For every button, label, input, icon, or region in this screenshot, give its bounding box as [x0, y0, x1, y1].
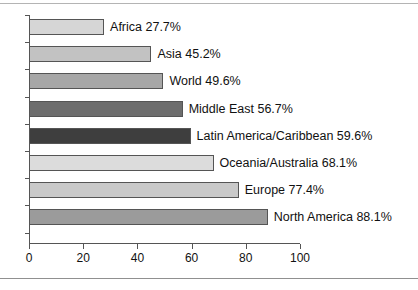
y-tick	[25, 15, 29, 16]
bar-label: Asia 45.2%	[157, 46, 220, 62]
y-tick	[25, 97, 29, 98]
y-tick	[25, 205, 29, 206]
y-tick	[25, 233, 29, 234]
bar-world	[29, 73, 163, 89]
plot-area: Africa 27.7%Asia 45.2%World 49.6%Middle …	[29, 15, 311, 243]
bar-label: Latin America/Caribbean 59.6%	[197, 128, 373, 144]
x-axis-line	[29, 243, 300, 244]
x-tick	[83, 244, 84, 249]
x-tick-label: 100	[280, 251, 320, 265]
x-tick-label: 20	[63, 251, 103, 265]
x-tick	[137, 244, 138, 249]
x-tick-label: 0	[9, 251, 49, 265]
bar-middle-east	[29, 101, 183, 117]
bar-label: World 49.6%	[169, 73, 240, 89]
bar-north-america	[29, 209, 268, 225]
bottom-divider-rule	[0, 278, 418, 279]
bar-asia	[29, 46, 151, 62]
x-tick-label: 40	[117, 251, 157, 265]
bar-label: Oceania/Australia 68.1%	[220, 155, 358, 171]
bar-label: Europe 77.4%	[245, 182, 324, 198]
x-tick-label: 60	[172, 251, 212, 265]
y-tick	[25, 178, 29, 179]
y-tick	[25, 151, 29, 152]
y-tick	[25, 69, 29, 70]
bar-chart-figure: Africa 27.7%Asia 45.2%World 49.6%Middle …	[0, 0, 418, 290]
top-divider-rule	[0, 3, 418, 4]
x-tick	[246, 244, 247, 249]
bar-label: North America 88.1%	[274, 209, 392, 225]
x-tick	[192, 244, 193, 249]
x-tick	[300, 244, 301, 249]
bar-africa	[29, 19, 104, 35]
bar-europe	[29, 182, 239, 198]
bar-label: Africa 27.7%	[110, 19, 181, 35]
y-tick	[25, 42, 29, 43]
bar-latin-america-caribbean	[29, 128, 191, 144]
x-tick	[29, 244, 30, 249]
y-tick	[25, 124, 29, 125]
bar-oceania-australia	[29, 155, 214, 171]
bar-label: Middle East 56.7%	[189, 101, 293, 117]
x-tick-label: 80	[226, 251, 266, 265]
